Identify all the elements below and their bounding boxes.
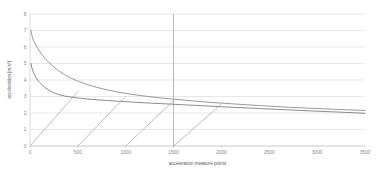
x-tick-label-1000: 1000	[120, 150, 131, 155]
acceleration-line-chart: 0123456780500100015002000250030003500acc…	[0, 0, 381, 174]
x-tick-label-0: 0	[29, 150, 32, 155]
y-tick-label-7: 7	[24, 28, 27, 33]
chart-container: 0123456780500100015002000250030003500acc…	[0, 0, 381, 174]
x-tick-label-3500: 3500	[360, 150, 371, 155]
y-tick-label-3: 3	[24, 94, 27, 99]
y-tick-label-8: 8	[24, 12, 27, 17]
y-tick-label-6: 6	[24, 45, 27, 50]
y-tick-label-4: 4	[24, 78, 27, 83]
x-tick-label-3000: 3000	[312, 150, 323, 155]
y-tick-label-1: 1	[24, 127, 27, 132]
x-tick-label-500: 500	[74, 150, 82, 155]
x-tick-label-2500: 2500	[264, 150, 275, 155]
y-axis-title: acceleration [m/s²]	[7, 61, 12, 99]
y-tick-label-2: 2	[24, 111, 27, 116]
x-tick-label-2000: 2000	[216, 150, 227, 155]
x-tick-label-1500: 1500	[168, 150, 179, 155]
x-axis-title: acceleration measure points	[169, 161, 227, 166]
y-tick-label-0: 0	[24, 144, 27, 149]
y-tick-label-5: 5	[24, 61, 27, 66]
